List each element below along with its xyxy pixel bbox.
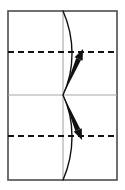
diagram-canvas (0, 0, 125, 190)
origami-fold-diagram (0, 0, 125, 190)
